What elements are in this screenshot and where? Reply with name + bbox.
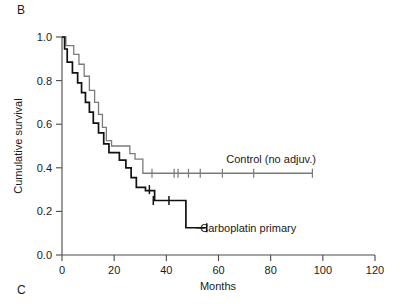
chart-annotations: Control (no adjuv.)Carboplatin primary: [196, 153, 316, 234]
y-tick-label: 0.0: [37, 249, 52, 261]
y-tick-label: 1.0: [37, 31, 52, 43]
series-label-1: Control (no adjuv.): [226, 153, 316, 165]
kaplan-meier-chart: 0.00.20.40.60.81.0 020406080100120 Contr…: [0, 0, 403, 304]
y-axis-title: Cumulative survival: [12, 98, 24, 193]
x-tick-label: 100: [314, 264, 332, 276]
x-tick-label: 60: [212, 264, 224, 276]
panel-label-b: B: [17, 3, 25, 17]
x-axis-ticks: 020406080100120: [59, 255, 384, 276]
y-tick-label: 0.2: [37, 205, 52, 217]
x-tick-label: 0: [59, 264, 65, 276]
figure-panel-b: B C 0.00.20.40.60.81.0 020406080100120 C…: [0, 0, 403, 304]
chart-series-layer: [62, 37, 312, 232]
series-label-2: Carboplatin primary: [200, 222, 296, 234]
y-tick-label: 0.6: [37, 118, 52, 130]
x-axis-title: Months: [200, 280, 237, 292]
y-tick-label: 0.4: [37, 162, 52, 174]
x-tick-label: 20: [108, 264, 120, 276]
y-axis-ticks: 0.00.20.40.60.81.0: [37, 31, 62, 261]
x-tick-label: 80: [265, 264, 277, 276]
panel-label-c: C: [17, 283, 26, 297]
y-tick-label: 0.8: [37, 75, 52, 87]
x-tick-label: 120: [366, 264, 384, 276]
x-tick-label: 40: [160, 264, 172, 276]
